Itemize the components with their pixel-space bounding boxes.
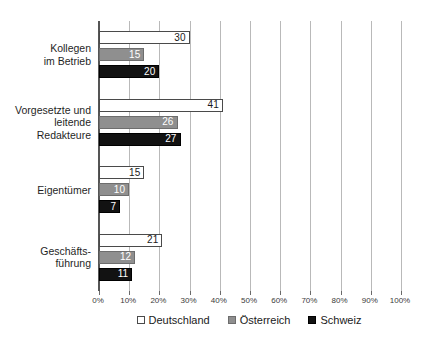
chart-legend: DeutschlandÖsterreichSchweiz <box>98 314 400 326</box>
bar-value-label: 11 <box>118 269 129 279</box>
legend-label: Schweiz <box>320 314 361 326</box>
x-axis-tick-label: 20% <box>150 296 166 305</box>
legend-item-schweiz[interactable]: Schweiz <box>308 314 361 326</box>
category-label: Vorgesetzte und leitende Redakteure <box>0 104 91 142</box>
category-label: Geschäfts- führung <box>0 245 91 270</box>
bar-schweiz[interactable]: 20 <box>99 65 159 78</box>
legend-item-deutschland[interactable]: Deutschland <box>137 314 210 326</box>
gridline-100pct <box>401 21 402 291</box>
bar-value-label: 26 <box>162 117 173 127</box>
bar-group: 301520 <box>99 21 400 89</box>
bar-schweiz[interactable]: 27 <box>99 133 181 146</box>
tick-mark-80pct <box>341 291 342 295</box>
legend-item-österreich[interactable]: Österreich <box>228 314 291 326</box>
bar-value-label: 12 <box>120 252 131 262</box>
bar-value-label: 27 <box>165 134 176 144</box>
x-axis-tick-label: 100% <box>390 296 410 305</box>
cropped-text-remnant <box>0 0 430 6</box>
bar-value-label: 15 <box>129 50 140 60</box>
tick-mark-100pct <box>401 291 402 295</box>
category-label: Kollegen im Betrieb <box>0 42 91 67</box>
tick-mark-40pct <box>220 291 221 295</box>
x-axis-tick-label: 0% <box>92 296 104 305</box>
tick-mark-30pct <box>190 291 191 295</box>
bar-schweiz[interactable]: 7 <box>99 200 120 213</box>
bar-value-label: 15 <box>129 168 140 178</box>
bar-value-label: 7 <box>110 202 116 212</box>
x-axis-tick-label: 50% <box>241 296 257 305</box>
x-axis-tick-label: 30% <box>181 296 197 305</box>
bar-deutschland[interactable]: 41 <box>99 99 223 112</box>
bar-österreich[interactable]: 15 <box>99 48 144 61</box>
plot-area: 30152041262715107211211 <box>98 21 400 291</box>
x-axis-tick-label: 40% <box>211 296 227 305</box>
bar-group: 412627 <box>99 89 400 157</box>
bar-österreich[interactable]: 12 <box>99 251 135 264</box>
tick-mark-60pct <box>280 291 281 295</box>
bar-deutschland[interactable]: 15 <box>99 166 144 179</box>
tick-mark-10pct <box>129 291 130 295</box>
tick-mark-50pct <box>250 291 251 295</box>
category-label: Eigentümer <box>0 184 91 197</box>
bar-value-label: 30 <box>174 33 185 43</box>
x-axis-tick-label: 90% <box>362 296 378 305</box>
x-axis-tick-label: 60% <box>271 296 287 305</box>
x-axis-tick-label: 80% <box>332 296 348 305</box>
bar-value-label: 41 <box>207 100 218 110</box>
legend-label: Österreich <box>240 314 291 326</box>
x-axis-tick-label: 10% <box>120 296 136 305</box>
bar-group: 211211 <box>99 224 400 292</box>
bar-value-label: 10 <box>114 185 125 195</box>
bar-österreich[interactable]: 26 <box>99 116 178 129</box>
bar-deutschland[interactable]: 21 <box>99 234 162 247</box>
bar-schweiz[interactable]: 11 <box>99 268 132 281</box>
legend-swatch-icon <box>308 316 316 324</box>
tick-mark-0pct <box>99 291 100 295</box>
bar-österreich[interactable]: 10 <box>99 183 129 196</box>
bar-group: 15107 <box>99 156 400 224</box>
x-axis-tick-label: 70% <box>301 296 317 305</box>
tick-mark-20pct <box>159 291 160 295</box>
tick-mark-70pct <box>310 291 311 295</box>
legend-label: Deutschland <box>149 314 210 326</box>
bar-value-label: 20 <box>144 67 155 77</box>
tick-mark-90pct <box>371 291 372 295</box>
bar-chart: 30152041262715107211211 Kollegen im Betr… <box>0 0 430 344</box>
legend-swatch-icon <box>228 316 236 324</box>
legend-swatch-icon <box>137 316 145 324</box>
bar-deutschland[interactable]: 30 <box>99 31 190 44</box>
bar-value-label: 21 <box>147 235 158 245</box>
